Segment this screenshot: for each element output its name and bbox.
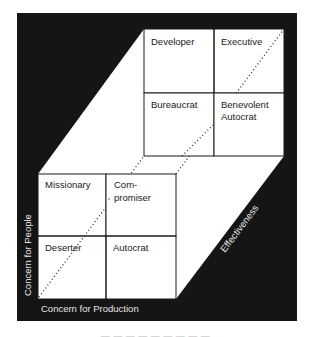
dotted-edge-lower-exit xyxy=(108,198,109,199)
label-missionary: Missionary xyxy=(45,179,91,190)
label-autocrat-back: Autocrat xyxy=(221,111,257,122)
label-promiser: promiser xyxy=(114,192,151,203)
label-executive: Executive xyxy=(221,36,262,47)
axis-label-concern-for-production: Concern for Production xyxy=(41,303,139,314)
label-bureaucrat: Bureaucrat xyxy=(151,99,198,110)
axis-label-concern-for-people: Concern for People xyxy=(22,214,33,296)
label-deserter: Deserter xyxy=(45,242,81,253)
label-com: Com- xyxy=(114,179,137,190)
diagram-svg: Developer Executive Bureaucrat Benevolen… xyxy=(0,0,311,337)
label-developer: Developer xyxy=(151,36,194,47)
diagram-canvas: Developer Executive Bureaucrat Benevolen… xyxy=(0,0,311,337)
label-autocrat-front: Autocrat xyxy=(113,242,149,253)
figure-caption: — — — — — — — — — xyxy=(0,331,311,337)
label-benevolent: Benevolent xyxy=(221,99,269,110)
